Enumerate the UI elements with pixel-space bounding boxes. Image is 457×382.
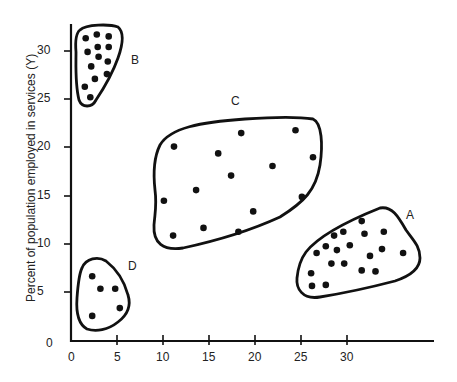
data-point-a — [313, 250, 320, 257]
x-tick-label: 15 — [202, 350, 215, 364]
data-point-c — [235, 228, 242, 235]
data-point-d — [89, 313, 96, 320]
x-tick-label: 0 — [68, 350, 75, 364]
data-point-a — [379, 246, 386, 253]
data-point-c — [193, 187, 200, 194]
data-point-b — [94, 44, 101, 51]
y-axis-label: Percent of population employed in servic… — [24, 72, 38, 302]
data-point-a — [341, 260, 348, 267]
data-point-a — [328, 260, 335, 267]
data-point-c — [161, 198, 168, 205]
data-point-a — [331, 232, 338, 239]
y-tick-label: 15 — [37, 188, 50, 202]
x-tick-label: 10 — [156, 350, 169, 364]
cluster-c-label: C — [231, 94, 240, 108]
data-point-c — [170, 232, 177, 239]
data-point-b — [105, 44, 112, 51]
data-point-d — [97, 286, 104, 293]
data-point-b — [95, 53, 102, 60]
data-point-a — [308, 270, 315, 277]
data-point-c — [200, 225, 207, 232]
data-point-b — [87, 94, 94, 101]
data-point-c — [250, 208, 257, 215]
x-tick-label: 25 — [294, 350, 307, 364]
y-tick-label: 10 — [37, 236, 50, 250]
data-point-c — [215, 150, 222, 157]
cluster-d-outline — [77, 258, 130, 330]
plot-area — [0, 0, 457, 382]
data-point-b — [104, 71, 111, 78]
data-point-a — [372, 268, 379, 275]
data-point-c — [292, 127, 299, 134]
data-point-b — [82, 83, 89, 90]
data-point-c — [228, 172, 235, 179]
y-tick-label: 25 — [37, 91, 50, 105]
data-point-a — [323, 282, 330, 289]
data-point-d — [112, 286, 119, 293]
y-tick-label: 20 — [37, 139, 50, 153]
data-point-b — [94, 31, 101, 38]
data-point-c — [269, 163, 276, 170]
data-point-c — [238, 130, 245, 137]
x-tick-label: 20 — [248, 350, 261, 364]
y-tick-label: 0 — [46, 336, 53, 350]
x-tick-label: 5 — [114, 350, 121, 364]
data-point-b — [105, 33, 112, 40]
cluster-b-label: B — [131, 53, 139, 67]
data-point-b — [82, 35, 89, 42]
cluster-scatter-diagram: Percent of population employed in servic… — [0, 0, 457, 382]
data-point-a — [334, 247, 341, 254]
data-point-b — [92, 76, 99, 83]
data-point-a — [400, 250, 407, 257]
data-point-a — [381, 228, 388, 235]
data-point-a — [340, 228, 347, 235]
data-point-c — [310, 154, 317, 161]
data-point-a — [367, 253, 374, 260]
data-point-b — [105, 58, 112, 65]
data-point-b — [84, 49, 91, 56]
y-tick-label: 5 — [37, 284, 44, 298]
data-point-b — [88, 63, 95, 70]
y-tick-label: 30 — [37, 43, 50, 57]
data-point-a — [358, 218, 365, 225]
data-point-a — [323, 243, 330, 250]
data-point-a — [358, 267, 365, 274]
data-point-c — [299, 194, 306, 201]
x-tick-label: 30 — [340, 350, 353, 364]
data-point-a — [361, 230, 368, 237]
data-point-c — [171, 143, 178, 150]
data-point-d — [89, 273, 96, 280]
cluster-a-label: A — [406, 208, 414, 222]
data-point-d — [117, 305, 124, 312]
data-points — [82, 31, 407, 319]
cluster-d-label: D — [128, 259, 137, 273]
data-point-a — [347, 242, 354, 249]
data-point-a — [309, 283, 316, 290]
